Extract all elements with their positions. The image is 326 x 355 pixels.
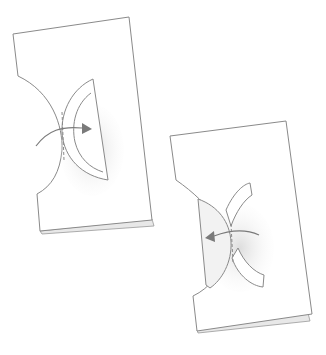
- card-1: [13, 17, 154, 234]
- illustration: Card 1 - flap folded right Card 2 - flap…: [0, 0, 326, 355]
- folding-diagram: [0, 0, 326, 355]
- card-2: [170, 121, 312, 333]
